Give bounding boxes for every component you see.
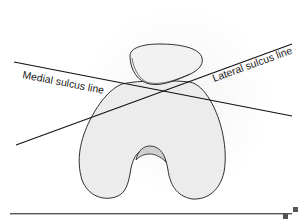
footer-rule: [10, 213, 292, 214]
femur-diagram: Medial sulcus line Lateral sulcus line: [0, 0, 300, 219]
footer-mark-upper: [293, 207, 298, 212]
footer-mark-lower: [283, 214, 288, 219]
